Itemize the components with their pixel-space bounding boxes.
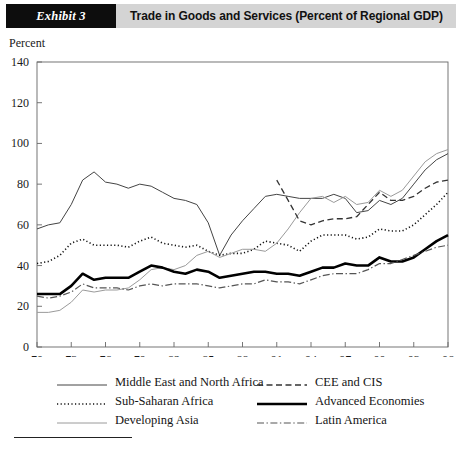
chart-axes (37, 62, 448, 347)
exhibit-number-badge: Exhibit 3 (6, 4, 116, 28)
legend-line-swatch (256, 396, 308, 408)
x-axis-tick-label: 76 (100, 353, 112, 357)
y-axis-tick-label: 40 (17, 259, 29, 273)
y-axis-tick-label: 100 (11, 136, 29, 150)
series-line-advanced-economies (37, 235, 448, 294)
legend-line-swatch (56, 396, 108, 408)
chart-legend: Middle East and North AfricaCEE and CISS… (56, 373, 446, 430)
x-axis-tick-label: 73 (65, 353, 77, 357)
series-line-cee-and-cis (277, 180, 448, 225)
y-axis-title: Percent (9, 36, 45, 51)
y-axis-tick-label: 60 (17, 218, 29, 232)
legend-item-developing-asia[interactable]: Developing Asia (56, 413, 256, 428)
y-axis-tick-label: 140 (11, 55, 29, 69)
y-axis-tick-label: 20 (17, 299, 29, 313)
legend-label: Middle East and North Africa (115, 375, 264, 390)
x-axis-tick-label: 82 (168, 353, 180, 357)
series-line-developing-asia (37, 150, 448, 313)
legend-line-swatch (256, 377, 308, 389)
legend-line-swatch (56, 377, 108, 389)
legend-line-swatch (256, 415, 308, 427)
y-axis-tick-label: 80 (17, 177, 29, 191)
y-axis-tick-label: 120 (11, 96, 29, 110)
legend-item-advanced-economies[interactable]: Advanced Economies (256, 394, 446, 409)
legend-label: Advanced Economies (315, 394, 424, 409)
legend-label: Developing Asia (115, 413, 199, 428)
legend-label: Sub-Saharan Africa (115, 394, 213, 409)
line-chart-svg: 0204060801001201407073767982858891949700… (0, 52, 462, 357)
x-axis-tick-label: 85 (202, 353, 214, 357)
legend-item-middle-east-and-north-africa[interactable]: Middle East and North Africa (56, 375, 256, 390)
exhibit-title: Trade in Goods and Services (Percent of … (116, 4, 456, 28)
exhibit-header: Exhibit 3 Trade in Goods and Services (P… (6, 4, 456, 28)
x-axis-tick-label: 03 (408, 353, 420, 357)
x-axis-tick-label: 00 (374, 353, 386, 357)
legend-item-sub-saharan-africa[interactable]: Sub-Saharan Africa (56, 394, 256, 409)
x-axis-tick-label: 91 (271, 353, 283, 357)
series-line-middle-east-and-north-africa (37, 154, 448, 256)
x-axis-tick-label: 70 (31, 353, 43, 357)
x-axis-tick-label: 88 (237, 353, 249, 357)
x-axis-tick-label: 97 (339, 353, 351, 357)
y-axis-tick-label: 0 (23, 340, 29, 354)
x-axis-tick-label: 94 (305, 353, 317, 357)
x-axis-tick-label: 79 (134, 353, 146, 357)
x-axis-tick-label: 06 (442, 353, 454, 357)
chart-tick-labels: 0204060801001201407073767982858891949700… (11, 55, 454, 357)
series-line-latin-america (37, 245, 448, 298)
legend-label: Latin America (315, 413, 387, 428)
legend-item-cee-and-cis[interactable]: CEE and CIS (256, 375, 446, 390)
footer-rule (14, 437, 132, 438)
legend-item-latin-america[interactable]: Latin America (256, 413, 446, 428)
legend-line-swatch (56, 415, 108, 427)
plot-frame (37, 62, 448, 347)
chart-series (37, 150, 448, 313)
chart-plot-area: 0204060801001201407073767982858891949700… (0, 52, 462, 357)
legend-label: CEE and CIS (315, 375, 382, 390)
